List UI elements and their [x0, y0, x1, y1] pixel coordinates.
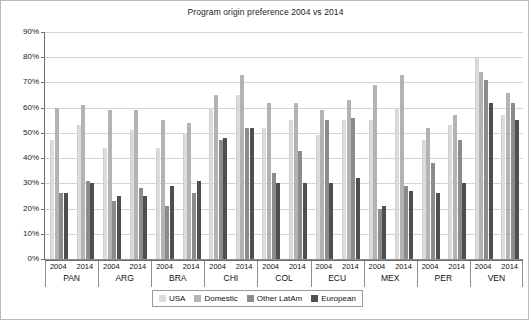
category-year-label-per-2014: 2014 [443, 262, 470, 271]
bar-arg-2004-european [117, 196, 121, 259]
category-group-pan: 20042014PAN [45, 261, 98, 287]
bar-col-2014-european [303, 183, 307, 259]
y-axis-tick-label: 80% [1, 52, 39, 61]
category-year-label-pan-2014: 2014 [72, 262, 99, 271]
category-name-label-ven: VEN [470, 273, 523, 283]
category-year-label-col-2014: 2014 [284, 262, 311, 271]
bar-subgroup-ven-2004 [470, 32, 497, 259]
bar-arg-2014-european [143, 196, 147, 259]
bar-ecu-2014-other-latam [351, 118, 355, 259]
y-axis-tick-label: 70% [1, 77, 39, 86]
category-separator [257, 261, 258, 287]
category-name-label-ecu: ECU [311, 273, 364, 283]
bar-subgroup-ecu-2014 [337, 32, 364, 259]
bar-arg-2014-domestic [134, 110, 138, 259]
bar-ecu-2004-usa [316, 135, 320, 259]
bar-arg-2004-domestic [108, 110, 112, 259]
bar-subgroup-pan-2014 [72, 32, 99, 259]
bar-per-2004-european [436, 193, 440, 259]
bar-subgroup-pan-2004 [45, 32, 72, 259]
bar-ven-2004-domestic [479, 72, 483, 259]
bar-group-mex [364, 32, 417, 259]
bar-subgroup-bra-2004 [151, 32, 178, 259]
bar-chi-2014-other-latam [245, 128, 249, 259]
category-group-bra: 20042014BRA [151, 261, 204, 287]
category-group-ecu: 20042014ECU [311, 261, 364, 287]
legend-item-european[interactable]: European [311, 294, 356, 303]
chart-legend: USADomesticOther LatAmEuropean [152, 290, 363, 307]
category-separator [522, 261, 523, 287]
legend-swatch-icon [159, 295, 166, 302]
bar-col-2014-domestic [294, 103, 298, 259]
bar-pan-2004-european [64, 193, 68, 259]
bar-subgroup-arg-2004 [98, 32, 125, 259]
category-name-label-chi: CHI [204, 273, 257, 283]
bar-bra-2014-european [197, 181, 201, 259]
bar-ecu-2014-usa [342, 120, 346, 259]
bar-ecu-2014-domestic [347, 100, 351, 259]
bar-ven-2004-usa [475, 57, 479, 259]
bar-subgroup-bra-2014 [178, 32, 205, 259]
category-year-label-chi-2004: 2004 [204, 262, 231, 271]
bar-ven-2004-other-latam [484, 80, 488, 259]
bar-ven-2014-domestic [506, 93, 510, 259]
y-axis-tick-label: 0% [1, 254, 39, 263]
y-axis-tick-label: 60% [1, 103, 39, 112]
bar-chi-2004-domestic [214, 95, 218, 259]
category-year-label-ven-2004: 2004 [470, 262, 497, 271]
bar-group-arg [98, 32, 151, 259]
category-year-label-chi-2014: 2014 [231, 262, 258, 271]
category-year-label-per-2004: 2004 [417, 262, 444, 271]
bar-bra-2014-usa [183, 133, 187, 259]
category-separator [98, 261, 99, 287]
bar-bra-2004-domestic [161, 120, 165, 259]
bar-subgroup-col-2014 [284, 32, 311, 259]
bar-group-chi [204, 32, 257, 259]
category-axis: 20042014PAN20042014ARG20042014BRA2004201… [45, 260, 523, 286]
bar-chi-2004-usa [209, 108, 213, 259]
bar-per-2014-european [462, 183, 466, 259]
bar-chi-2014-usa [236, 95, 240, 259]
category-year-label-mex-2004: 2004 [364, 262, 391, 271]
category-name-label-mex: MEX [364, 273, 417, 283]
bar-mex-2004-other-latam [378, 209, 382, 259]
bar-subgroup-ecu-2004 [311, 32, 338, 259]
bar-pan-2014-european [90, 183, 94, 259]
bar-ecu-2014-european [356, 178, 360, 259]
bar-arg-2014-usa [130, 130, 134, 259]
bar-chi-2004-other-latam [219, 140, 223, 259]
category-year-label-mex-2014: 2014 [390, 262, 417, 271]
y-axis-tick-label: 90% [1, 27, 39, 36]
category-separator [417, 261, 418, 287]
category-separator [45, 261, 46, 287]
category-year-label-bra-2004: 2004 [151, 262, 178, 271]
category-name-label-pan: PAN [45, 273, 98, 283]
legend-swatch-icon [247, 295, 254, 302]
bar-bra-2004-other-latam [165, 206, 169, 259]
bar-mex-2004-domestic [373, 85, 377, 259]
chart-container: Program origin preference 2004 vs 2014 0… [0, 0, 529, 320]
bar-group-ven [470, 32, 523, 259]
bar-col-2004-other-latam [272, 173, 276, 259]
bar-pan-2014-other-latam [86, 181, 90, 259]
bar-per-2014-domestic [453, 115, 457, 259]
bar-ven-2014-european [515, 120, 519, 259]
category-year-label-pan-2004: 2004 [45, 262, 72, 271]
category-separator [470, 261, 471, 287]
legend-item-usa[interactable]: USA [159, 294, 185, 303]
bar-group-per [417, 32, 470, 259]
bar-col-2004-usa [262, 128, 266, 259]
legend-item-domestic[interactable]: Domestic [194, 294, 237, 303]
category-group-per: 20042014PER [417, 261, 470, 287]
bar-ven-2014-other-latam [511, 103, 515, 259]
bar-ven-2004-european [489, 103, 493, 259]
bar-ecu-2004-domestic [320, 110, 324, 259]
chart-title: Program origin preference 2004 vs 2014 [1, 7, 529, 17]
legend-item-other-latam[interactable]: Other LatAm [247, 294, 302, 303]
bar-subgroup-per-2014 [443, 32, 470, 259]
bar-chi-2004-european [223, 138, 227, 259]
legend-label: Other LatAm [257, 294, 302, 303]
category-separator [364, 261, 365, 287]
bar-arg-2004-other-latam [112, 201, 116, 259]
category-separator [311, 261, 312, 287]
